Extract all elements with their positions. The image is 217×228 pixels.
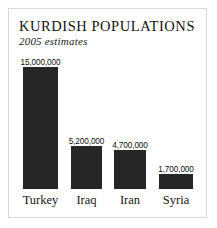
chart-subtitle: 2005 estimates [19,35,200,48]
bar-value-label: 15,000,000 [21,58,61,67]
bar-rect [159,174,193,189]
bar-rect [23,67,58,189]
bar-category-label: Iraq [76,193,96,207]
page-title: KURDISH POPULATIONS [19,18,200,34]
bar-category-label: Syria [163,193,189,207]
bar-group-syria: 1,700,000 Syria [159,174,193,189]
bar-rect [71,146,102,189]
chart-card: KURDISH POPULATIONS 2005 estimates 15,00… [8,8,207,218]
bar-value-label: 1,700,000 [158,165,194,174]
chart-heading: KURDISH POPULATIONS 2005 estimates [19,18,200,48]
bar-rect [114,150,146,189]
bar-chart-plot-area: 15,000,000 Turkey 5,200,000 Iraq 4,700,0… [9,55,206,217]
bar-value-label: 4,700,000 [112,141,148,150]
bar-group-iraq: 5,200,000 Iraq [71,146,102,189]
bar-value-label: 5,200,000 [69,137,105,146]
bar-group-iran: 4,700,000 Iran [114,150,146,189]
bar-group-turkey: 15,000,000 Turkey [23,67,58,189]
bar-category-label: Iran [120,193,140,207]
bar-category-label: Turkey [23,193,59,207]
